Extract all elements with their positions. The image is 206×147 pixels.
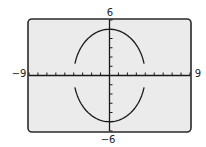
graph-chart: −9 9 6 −6 <box>0 0 206 147</box>
y-max-label: 6 <box>107 7 113 18</box>
x-min-label: −9 <box>12 68 27 79</box>
y-min-label: −6 <box>101 134 116 145</box>
x-max-label: 9 <box>195 68 201 79</box>
